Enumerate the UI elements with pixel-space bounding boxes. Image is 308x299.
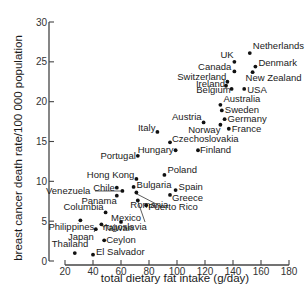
point-marker xyxy=(91,253,95,257)
point-label: France xyxy=(232,123,262,134)
y-tick-label: 25 xyxy=(36,56,48,67)
y-tick-label: 20 xyxy=(36,96,48,107)
point-label: Mexico xyxy=(111,212,141,223)
point-label: Denmark xyxy=(258,57,297,68)
point-marker xyxy=(254,65,258,69)
point-marker xyxy=(223,117,227,121)
y-tick-label: 30 xyxy=(36,17,48,28)
y-tick-label: 5 xyxy=(41,216,47,227)
data-point: Italy xyxy=(138,122,159,134)
point-label: Chile xyxy=(93,182,115,193)
point-label: Taiwan xyxy=(103,222,133,233)
data-point: El Salvador xyxy=(91,246,144,257)
point-label: El Salvador xyxy=(96,246,145,257)
x-tick-label: 180 xyxy=(281,266,298,277)
point-label: Ceylon xyxy=(106,234,136,245)
point-marker xyxy=(156,130,160,134)
point-label: Finland xyxy=(200,144,231,155)
point-label: Netherlands xyxy=(253,40,304,51)
point-label: Bulgaria xyxy=(137,179,173,190)
x-tick-label: 160 xyxy=(253,266,270,277)
data-point: Poland xyxy=(163,164,197,177)
x-tick-label: 40 xyxy=(87,266,99,277)
scatter-chart: 051015202530 20406080100120140160180 tot… xyxy=(0,0,308,299)
point-marker xyxy=(233,60,237,64)
point-label: Portugal xyxy=(100,150,135,161)
data-points: NetherlandsUKDenmarkCanadaNew ZealandSwi… xyxy=(46,40,304,257)
data-point: Thailand xyxy=(52,238,88,255)
y-tick-label: 0 xyxy=(41,256,47,267)
point-marker xyxy=(174,148,178,152)
point-marker xyxy=(73,251,77,255)
point-marker xyxy=(220,109,224,113)
point-marker xyxy=(136,199,140,203)
data-point: Portugal xyxy=(100,150,139,161)
data-point: Netherlands xyxy=(248,40,304,55)
data-point: Hungary xyxy=(138,144,178,155)
point-marker xyxy=(135,191,139,195)
y-axis-title: breast cancer death rate/100 000 populat… xyxy=(12,35,24,261)
data-point: Columbia xyxy=(63,201,107,214)
point-marker xyxy=(115,186,119,190)
point-marker xyxy=(94,227,98,231)
data-point: Czechoslovakia xyxy=(168,133,239,144)
data-point: Denmark xyxy=(254,57,298,69)
point-label: Spain xyxy=(179,181,203,192)
data-point: Ceylon xyxy=(102,234,135,245)
data-point: Spain xyxy=(174,181,203,192)
y-tick-label: 15 xyxy=(36,136,48,147)
point-label: Austria xyxy=(172,111,202,122)
data-point: France xyxy=(227,123,261,134)
point-marker xyxy=(233,69,237,73)
point-marker xyxy=(163,173,167,177)
data-point: New Zealand xyxy=(246,70,302,83)
data-point: Hong Kong xyxy=(87,169,138,181)
point-marker xyxy=(132,185,136,189)
point-label: Australia xyxy=(223,93,261,104)
point-label: Columbia xyxy=(63,201,104,212)
point-marker xyxy=(248,51,252,55)
point-label: Hong Kong xyxy=(87,169,135,180)
point-label: Poland xyxy=(167,164,197,175)
point-label: Czechoslovakia xyxy=(172,133,239,144)
point-marker xyxy=(242,87,246,91)
point-label: New Zealand xyxy=(246,72,302,83)
x-axis-title: total dietary fat intake (g/day) xyxy=(101,272,249,284)
point-label: UK xyxy=(220,49,234,60)
point-label: Puerto Rico xyxy=(148,201,198,212)
data-point: Taiwan xyxy=(100,222,133,233)
data-point: Austria xyxy=(172,111,205,124)
point-marker xyxy=(227,127,231,131)
point-marker xyxy=(104,211,108,215)
point-label: Italy xyxy=(138,122,156,133)
data-point: Finland xyxy=(196,144,231,155)
data-point: Puerto Rico xyxy=(144,201,198,212)
point-marker xyxy=(136,154,140,158)
x-tick-label: 20 xyxy=(59,266,71,277)
data-point: Bulgaria xyxy=(132,179,172,190)
point-marker xyxy=(121,189,125,193)
point-label: Thailand xyxy=(52,238,88,249)
point-marker xyxy=(219,103,223,107)
point-label: Hungary xyxy=(138,144,174,155)
